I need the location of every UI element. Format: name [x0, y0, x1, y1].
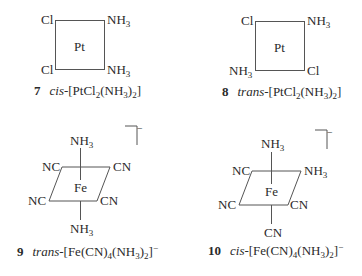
ligand-eq-front-right: CN — [100, 194, 118, 207]
ligand-eq-back-left: NC — [42, 160, 60, 173]
ligand-eq-front-left: NC — [28, 194, 46, 207]
ligand-bottom-left: Cl — [41, 63, 53, 76]
metal-center: Fe — [265, 185, 278, 198]
ligand-bottom-right: NH3 — [107, 63, 130, 76]
ligand-top-right: NH3 — [107, 13, 130, 26]
ligand-top-left: Cl — [41, 13, 53, 26]
caption-7: 7cis-[PtCl2(NH3)2] — [34, 84, 141, 97]
ligand-eq-back-left: NC — [232, 164, 250, 177]
metal-center: Pt — [74, 40, 85, 53]
bracket-9 — [125, 126, 137, 145]
caption-10: 10cis-[Fe(CN)4(NH3)2]− — [208, 244, 343, 257]
structure-lines — [0, 0, 362, 276]
ligand-bottom-left: NH3 — [229, 64, 252, 77]
ligand-eq-front-left: NC — [218, 198, 236, 211]
ligand-top-left: Cl — [241, 14, 253, 27]
ligand-eq-front-right: CN — [290, 198, 308, 211]
bracket-10 — [315, 130, 327, 149]
ligand-eq-back-right: CN — [113, 160, 131, 173]
metal-center: Fe — [74, 181, 87, 194]
charge-sign: − — [327, 128, 333, 138]
caption-8: 8trans-[PtCl2(NH3)2] — [222, 85, 341, 98]
metal-center: Pt — [274, 41, 285, 54]
ligand-bottom-right: Cl — [307, 64, 319, 77]
ligand-top-right: NH3 — [307, 14, 330, 27]
charge-sign: − — [137, 124, 143, 134]
ligand-axial-bottom: CN — [264, 226, 282, 239]
ligand-axial-top: NH3 — [70, 134, 93, 147]
ligand-axial-top: NH3 — [261, 137, 284, 150]
caption-9: 9trans-[Fe(CN)4(NH3)2]− — [17, 245, 158, 258]
ligand-eq-back-right: NH3 — [304, 164, 327, 177]
ligand-axial-bottom: NH3 — [70, 222, 93, 235]
